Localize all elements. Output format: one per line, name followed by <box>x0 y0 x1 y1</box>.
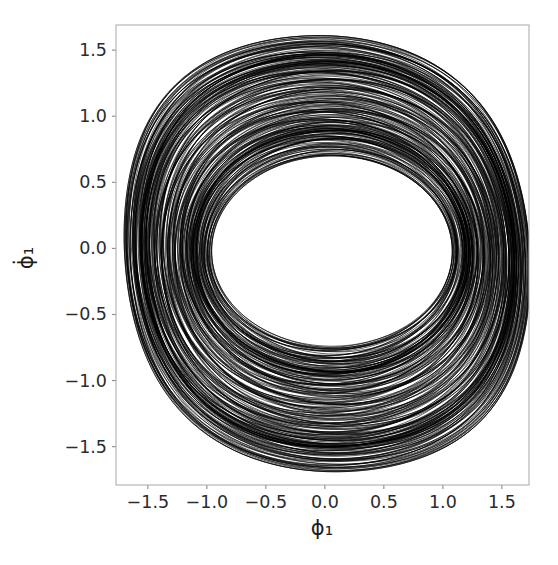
plot-canvas: −1.5−1.0−0.50.00.51.01.51.51.00.50.0−0.5… <box>0 0 558 565</box>
y-tick-label: 0.5 <box>79 172 107 192</box>
x-tick-label: −1.5 <box>127 492 170 512</box>
y-tick-label: −0.5 <box>65 304 108 324</box>
x-tick-label: −0.5 <box>245 492 288 512</box>
x-tick-label: 0.5 <box>370 492 398 512</box>
x-axis-label: ϕ₁ <box>311 516 333 540</box>
x-tick-label: 0.0 <box>311 492 339 512</box>
y-axis-label: ϕ̇₁ <box>12 247 38 269</box>
phase-portrait-figure: −1.5−1.0−0.50.00.51.01.51.51.00.50.0−0.5… <box>0 0 558 565</box>
y-tick-label: −1.5 <box>65 437 108 457</box>
x-tick-label: 1.5 <box>488 492 516 512</box>
y-tick-label: 0.0 <box>79 238 107 258</box>
x-tick-label: 1.0 <box>429 492 457 512</box>
y-tick-label: 1.5 <box>79 40 107 60</box>
y-tick-label: −1.0 <box>65 371 108 391</box>
x-tick-label: −1.0 <box>186 492 229 512</box>
y-tick-label: 1.0 <box>79 106 107 126</box>
